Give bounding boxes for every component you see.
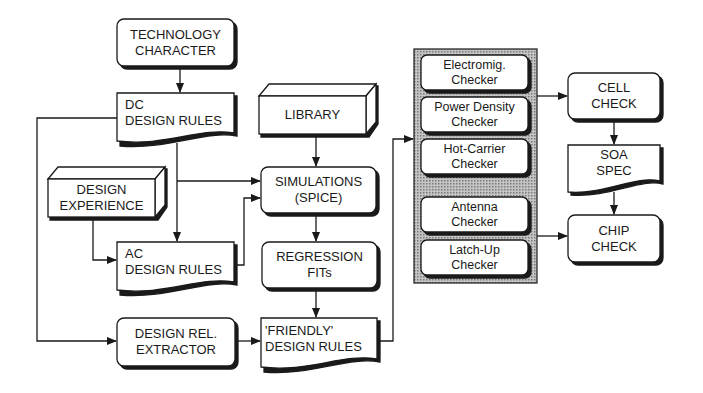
node-label-line: SPEC — [596, 163, 631, 179]
node-label-line: Electromig. — [443, 58, 506, 73]
node-dc-design-rules: DC DESIGN RULES — [117, 95, 234, 131]
node-label-line: EXTRACTOR — [136, 342, 216, 358]
node-label-line: TECHNOLOGY — [130, 27, 221, 43]
node-label-line: CHIP — [598, 223, 629, 239]
node-label-line: LIBRARY — [285, 107, 340, 123]
node-label-line: DESIGN RULES — [117, 262, 222, 278]
node-label-line: Checker — [451, 157, 498, 172]
node-label-line: CHARACTER — [135, 43, 216, 59]
node-hot-carrier-checker: Hot-Carrier Checker — [421, 139, 528, 174]
node-label-line: CHECK — [591, 239, 637, 255]
node-technology-character: TECHNOLOGY CHARACTER — [117, 19, 234, 66]
node-label-line: EXPERIENCE — [60, 198, 144, 214]
node-library: LIBRARY — [259, 96, 366, 134]
node-latch-up-checker: Latch-Up Checker — [421, 240, 528, 275]
node-label-line: FITs — [307, 265, 332, 281]
node-label-line: SOA — [600, 147, 627, 163]
node-label-line: SIMULATIONS — [275, 174, 362, 190]
node-label-line: Hot-Carrier — [444, 142, 506, 157]
node-label-line: Checker — [451, 215, 498, 230]
edge-friendly-to-checkers — [380, 139, 413, 341]
edge-experience-to-ac — [93, 218, 116, 260]
node-label-line: (SPICE) — [295, 190, 343, 206]
node-design-experience: DESIGN EXPERIENCE — [48, 179, 155, 217]
node-soa-spec: SOA SPEC — [568, 146, 660, 180]
node-design-rel-extractor: DESIGN REL. EXTRACTOR — [117, 318, 235, 366]
node-label-line: DESIGN — [77, 182, 127, 198]
node-label-line: DESIGN RULES — [261, 339, 362, 355]
node-cell-check: CELL CHECK — [568, 73, 660, 119]
node-friendly-design-rules: 'FRIENDLY' DESIGN RULES — [261, 320, 377, 358]
node-regression-fits: REGRESSION FITs — [262, 242, 377, 288]
node-label-line: Checker — [451, 73, 498, 88]
node-label-line: AC — [117, 246, 143, 262]
node-ac-design-rules: AC DESIGN RULES — [117, 244, 234, 280]
edge-dc-to-extractor — [37, 118, 117, 341]
node-simulations: SIMULATIONS (SPICE) — [261, 167, 376, 213]
node-label-line: Antenna — [451, 200, 498, 215]
node-label-line: CHECK — [591, 96, 637, 112]
node-label-line: REGRESSION — [276, 249, 363, 265]
node-label-line: 'FRIENDLY' — [261, 323, 333, 339]
node-label-line: Checker — [451, 115, 498, 130]
node-antenna-checker: Antenna Checker — [421, 197, 528, 232]
edge-ac-to-simulations — [237, 198, 260, 265]
node-power-density-checker: Power Density Checker — [421, 97, 528, 132]
node-chip-check: CHIP CHECK — [568, 215, 660, 262]
node-label-line: DC — [117, 97, 144, 113]
node-electromig-checker: Electromig. Checker — [421, 55, 528, 90]
node-label-line: DESIGN RULES — [117, 113, 222, 129]
node-label-line: Checker — [451, 258, 498, 273]
node-label-line: DESIGN REL. — [135, 326, 217, 342]
node-label-line: Power Density — [434, 100, 515, 115]
node-label-line: Latch-Up — [449, 243, 500, 258]
node-label-line: CELL — [598, 80, 631, 96]
